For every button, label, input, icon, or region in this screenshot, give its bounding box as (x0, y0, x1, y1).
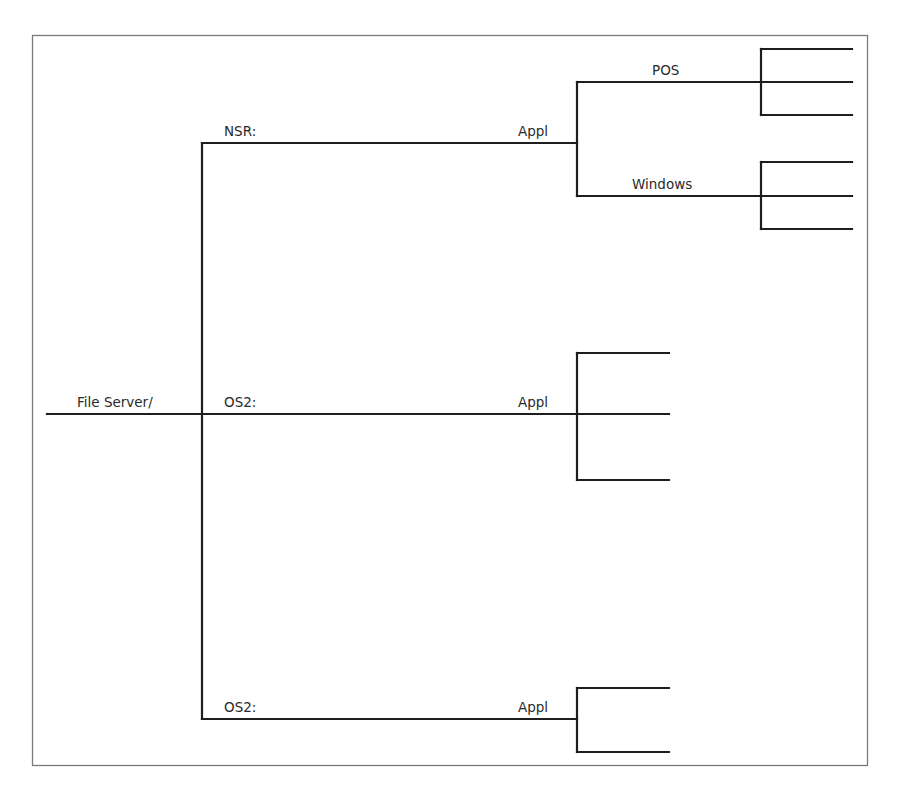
network-tree-diagram: File Server/ NSR: Appl POS Windows (0, 0, 900, 793)
os2-middle-label: OS2: (224, 394, 256, 410)
diagram-frame (33, 36, 868, 766)
root-label: File Server/ (77, 394, 153, 410)
branch-os2-bottom: OS2: Appl (202, 688, 669, 752)
os2-bottom-appl-label: Appl (518, 699, 548, 715)
nsr-appl-label: Appl (518, 123, 548, 139)
pos-label: POS (652, 62, 679, 78)
sub-branch-pos: POS (577, 49, 852, 115)
branch-os2-middle: OS2: Appl (202, 353, 669, 480)
nsr-label: NSR: (224, 123, 256, 139)
root-node: File Server/ (47, 394, 202, 414)
os2-bottom-label: OS2: (224, 699, 256, 715)
windows-label: Windows (632, 176, 692, 192)
os2-middle-appl-label: Appl (518, 394, 548, 410)
branch-nsr: NSR: Appl POS Windows (202, 49, 852, 229)
sub-branch-windows: Windows (577, 162, 852, 229)
